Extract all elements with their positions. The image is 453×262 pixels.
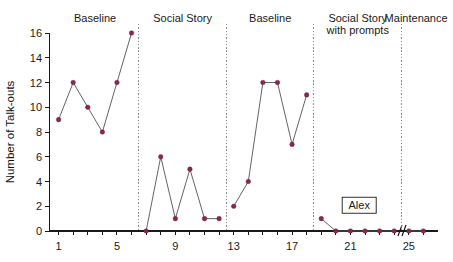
- data-point[interactable]: [71, 80, 76, 85]
- phase-label-social-story-with-prompts-line2: with prompts: [326, 24, 390, 36]
- data-point[interactable]: [202, 216, 207, 221]
- data-point[interactable]: [348, 229, 353, 234]
- data-point[interactable]: [217, 216, 222, 221]
- data-point[interactable]: [334, 229, 339, 234]
- data-point[interactable]: [56, 117, 61, 122]
- phase-label-baseline-1: Baseline: [74, 12, 116, 24]
- y-axis-tick-label: 8: [36, 126, 42, 138]
- x-axis-tick-label: 17: [286, 240, 298, 252]
- data-point[interactable]: [129, 31, 134, 36]
- series-line-social-story-with-prompts: [321, 219, 394, 231]
- series-line-social-story: [146, 157, 219, 231]
- phase-label-social-story: Social Story: [153, 12, 212, 24]
- series-line-baseline-2: [234, 83, 307, 207]
- talk-outs-line-chart: 0246810121416Number of Talk-outs15913172…: [0, 0, 453, 262]
- data-point[interactable]: [246, 179, 251, 184]
- x-axis-tick-label: 25: [403, 240, 415, 252]
- data-point[interactable]: [115, 80, 120, 85]
- data-point[interactable]: [290, 142, 295, 147]
- y-axis-tick-label: 16: [30, 27, 42, 39]
- data-point[interactable]: [421, 229, 426, 234]
- data-point[interactable]: [158, 154, 163, 159]
- x-axis-tick-label: 1: [56, 240, 62, 252]
- x-axis-tick-label: 13: [228, 240, 240, 252]
- data-point[interactable]: [407, 229, 412, 234]
- data-point[interactable]: [319, 216, 324, 221]
- y-axis-tick-label: 10: [30, 101, 42, 113]
- x-axis-tick-label: 9: [172, 240, 178, 252]
- data-point[interactable]: [363, 229, 368, 234]
- data-point[interactable]: [275, 80, 280, 85]
- data-point[interactable]: [304, 93, 309, 98]
- y-axis-tick-label: 0: [36, 225, 42, 237]
- y-axis-tick-label: 4: [36, 176, 42, 188]
- phase-label-maintenance: Maintenance: [385, 12, 448, 24]
- data-point[interactable]: [85, 105, 90, 110]
- series-line-baseline-1: [59, 33, 132, 132]
- subject-label: Alex: [348, 199, 370, 211]
- x-axis-tick-label: 5: [114, 240, 120, 252]
- data-point[interactable]: [261, 80, 266, 85]
- y-axis-tick-label: 14: [30, 52, 42, 64]
- y-axis-tick-label: 2: [36, 200, 42, 212]
- data-point[interactable]: [188, 167, 193, 172]
- data-point[interactable]: [392, 229, 397, 234]
- y-axis-tick-label: 6: [36, 151, 42, 163]
- x-axis-tick-label: 21: [344, 240, 356, 252]
- y-axis-title: Number of Talk-outs: [4, 80, 16, 183]
- data-point[interactable]: [144, 229, 149, 234]
- y-axis-tick-label: 12: [30, 77, 42, 89]
- phase-label-baseline-2: Baseline: [249, 12, 291, 24]
- phase-label-social-story-with-prompts: Social Story: [328, 12, 387, 24]
- data-point[interactable]: [173, 216, 178, 221]
- chart-page: 0246810121416Number of Talk-outs15913172…: [0, 0, 453, 262]
- data-point[interactable]: [100, 130, 105, 135]
- data-point[interactable]: [377, 229, 382, 234]
- data-point[interactable]: [231, 204, 236, 209]
